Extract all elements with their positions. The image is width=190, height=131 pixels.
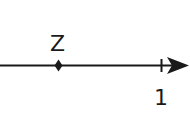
number-line-diagram: Z 1: [0, 0, 190, 131]
tick-one-label: 1: [154, 87, 168, 109]
point-z-label: Z: [50, 33, 65, 55]
point-z-dot-icon: [55, 60, 63, 72]
number-line-svg: [0, 0, 190, 131]
